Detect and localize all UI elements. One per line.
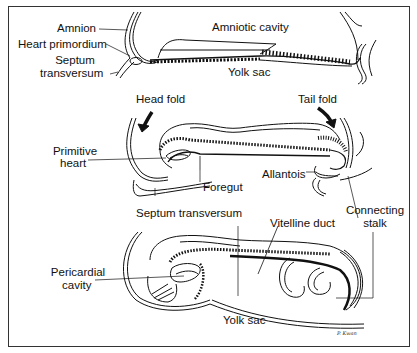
label-tail-fold: Tail fold — [298, 93, 337, 106]
artist-signature: P. Kwan — [337, 330, 357, 336]
label-head-fold: Head fold — [136, 93, 185, 106]
label-pericardial-line2: cavity — [62, 279, 91, 292]
label-connecting-stalk-line1: Connecting — [342, 204, 408, 217]
label-foregut: Foregut — [203, 181, 243, 194]
embryo-illustration — [0, 0, 417, 353]
stage-2-drawing — [127, 108, 372, 196]
label-yolk-sac-2: Yolk sac — [223, 314, 265, 327]
label-septum-line2: transversum — [40, 67, 103, 80]
label-amnion: Amnion — [28, 22, 96, 35]
label-allantois: Allantois — [262, 168, 305, 181]
label-yolk-sac-1: Yolk sac — [228, 66, 270, 79]
label-pericardial-line1: Pericardial — [48, 266, 108, 279]
label-septum-transversum: Septum transversum — [136, 207, 242, 220]
label-primitive-heart-line2: heart — [60, 157, 86, 170]
label-connecting-stalk-line2: stalk — [342, 217, 408, 230]
label-heart-primordium: Heart primordium — [18, 38, 107, 51]
label-septum-line1: Septum — [50, 54, 100, 67]
label-vitelline-duct: Vitelline duct — [270, 217, 335, 230]
label-amniotic-cavity: Amniotic cavity — [212, 21, 289, 34]
